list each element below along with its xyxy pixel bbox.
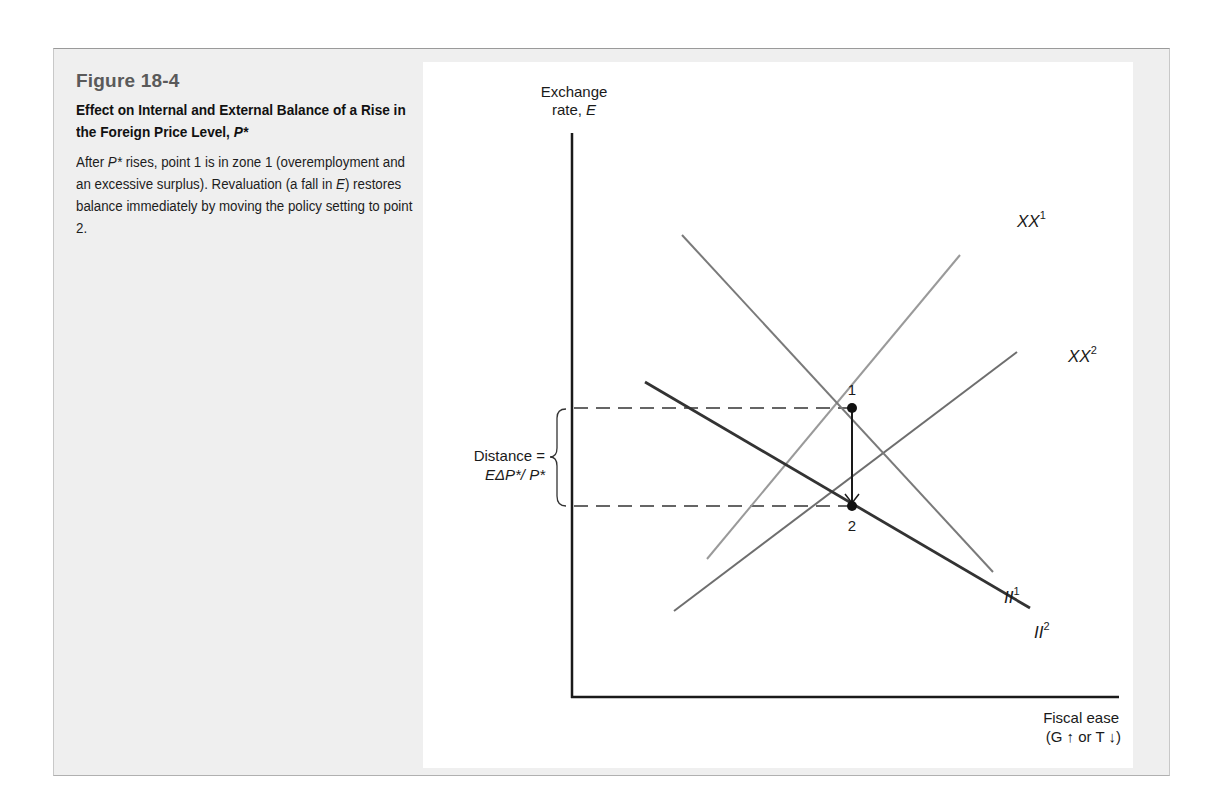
curve-xx1: [707, 255, 960, 559]
point-2-label: 2: [848, 517, 856, 534]
label-ii2: II2: [1034, 620, 1050, 642]
curve-xx2: [674, 352, 1017, 611]
distance-label-line2: EΔP*/ P*: [485, 466, 546, 483]
curve-ii2: [645, 382, 1030, 608]
curve-ii1: [682, 235, 993, 572]
label-ii1: II1: [1004, 585, 1020, 607]
brace-icon: [550, 409, 566, 506]
point-1-label: 1: [848, 381, 856, 398]
point-2: [847, 501, 857, 511]
label-xx1: XX1: [1016, 209, 1046, 231]
label-xx2: XX2: [1067, 344, 1097, 366]
diagram-canvas: 1 2 XX1 XX2 II1 II2 Exchange rate, E Fis…: [0, 0, 1226, 787]
x-axis-title-line1: Fiscal ease: [1043, 709, 1119, 726]
x-axis-title-line2: (G ↑ or T ↓): [1046, 728, 1121, 745]
y-axis-title-line1: Exchange: [541, 83, 608, 100]
point-1: [847, 403, 857, 413]
distance-label-line1: Distance =: [474, 447, 546, 464]
y-axis-title-line2: rate, E: [552, 101, 597, 118]
